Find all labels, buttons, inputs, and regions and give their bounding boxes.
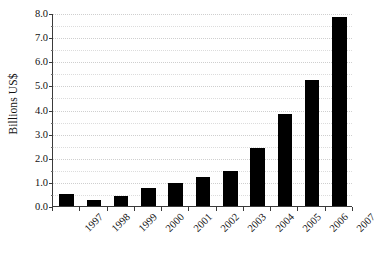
bar (168, 183, 183, 206)
x-axis-tick-label: 2003 (246, 212, 268, 234)
y-axis-tick-label: 4.0 (22, 105, 48, 116)
y-axis-tick-label: 7.0 (22, 33, 48, 44)
y-axis-tick-label: 0.0 (22, 202, 48, 213)
x-axis-tick (52, 207, 53, 211)
x-axis-tick (134, 207, 135, 211)
x-axis-tick (216, 207, 217, 211)
x-axis-tick (188, 207, 189, 211)
y-axis-tick-labels: 0.01.02.03.04.05.06.07.08.0 (22, 0, 48, 215)
bars-layer (53, 14, 352, 206)
y-axis-tick-label: 1.0 (22, 178, 48, 189)
x-axis-tick-label: 1999 (137, 212, 159, 234)
y-axis-title-text: Billions US$ (7, 74, 19, 135)
x-axis-tick (107, 207, 108, 211)
bar (87, 200, 102, 207)
bar (250, 148, 265, 206)
bar (332, 17, 347, 206)
plot-area (52, 14, 352, 207)
x-axis-tick-label: 2002 (219, 212, 241, 234)
bar (305, 80, 320, 206)
x-axis-tick (161, 207, 162, 211)
y-axis-tick-label: 3.0 (22, 129, 48, 140)
x-axis-tick (297, 207, 298, 211)
x-axis-tick-label: 2007 (356, 212, 378, 234)
x-axis-tick-label: 2000 (165, 212, 187, 234)
bar (278, 114, 293, 206)
x-axis-tick (270, 207, 271, 211)
x-axis-tick (325, 207, 326, 211)
x-axis-tick-label: 2005 (301, 212, 323, 234)
x-axis-tick (243, 207, 244, 211)
x-axis-tick-labels: 1997199819992000200120022003200420052006… (52, 212, 352, 256)
bar (223, 171, 238, 206)
bar (196, 177, 211, 206)
y-axis-tick-label: 8.0 (22, 9, 48, 20)
x-axis-tick-label: 1997 (83, 212, 105, 234)
bar (141, 188, 156, 206)
bar (114, 196, 129, 206)
y-axis-tick-label: 5.0 (22, 81, 48, 92)
x-axis-tick (352, 207, 353, 211)
x-axis-tick-label: 1998 (110, 212, 132, 234)
y-axis-tick-label: 6.0 (22, 57, 48, 68)
x-axis-tick-label: 2006 (328, 212, 350, 234)
y-axis-tick-label: 2.0 (22, 154, 48, 165)
x-axis-tick (79, 207, 80, 211)
x-axis-tick-label: 2004 (274, 212, 296, 234)
bar (59, 194, 74, 206)
x-axis-tick-label: 2001 (192, 212, 214, 234)
